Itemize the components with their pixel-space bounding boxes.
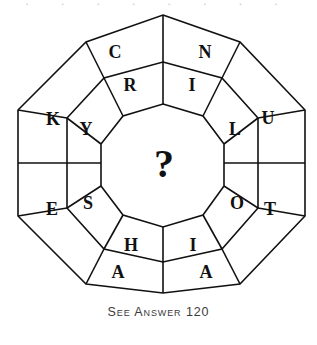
outer-cell-letter-3: U [262,108,275,128]
puzzle-diagram: C N U T A A E K R I L O I H S Y ? [0,0,317,345]
inner-spoke-top-right [203,78,222,116]
inner-spoke-bottom-l2 [104,215,123,249]
inner-cell-letter-1: R [124,75,138,95]
outer-cell-letter-7: E [46,199,58,219]
inner-cell-letter-7: S [83,193,93,213]
outer-cell-letter-1: C [109,42,122,62]
inner-cell-letter-4: O [230,193,244,213]
inner-cell-letter-6: H [124,235,138,255]
puzzle-figure: C N U T A A E K R I L O I H S Y ? [0,0,317,345]
outer-cell-letter-2: N [199,42,212,62]
inner-cell-letter-3: L [229,119,241,139]
inner-spoke-top-left [104,78,123,116]
outer-cell-letter-8: K [46,109,60,129]
outer-spoke-bottom-l2 [86,249,104,284]
outer-cell-letter-6: A [112,262,125,282]
center-question-mark: ? [154,141,174,186]
outer-spoke-bottom-left [18,208,67,216]
inner-cell-letter-8: Y [80,119,93,139]
answer-reference-caption: See Answer 120 [0,305,317,319]
outer-spoke-top-left [86,42,104,78]
outer-cell-letter-4: T [264,199,276,219]
inner-cell-letter-5: I [189,235,196,255]
outer-cell-letter-5: A [200,262,213,282]
outer-spoke-top-right [222,42,240,78]
inner-spoke-bottom-r2 [203,215,222,249]
outer-spoke-bottom-r2 [222,249,240,284]
inner-cell-letter-2: I [188,75,195,95]
